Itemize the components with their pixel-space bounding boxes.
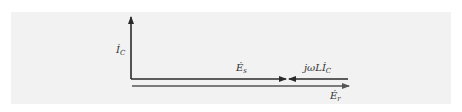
es-label: Ės [235,62,247,75]
phasor-diagram: İC Ės jωLİC Ėr [0,0,462,112]
ic-label: İC [115,44,126,57]
jwlic-label: jωLİC [302,62,332,75]
er-label: Ėr [329,90,341,103]
